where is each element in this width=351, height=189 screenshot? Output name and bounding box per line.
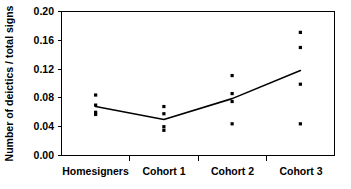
x-tick-label-cohort-1: Cohort 1: [142, 165, 185, 177]
y-tick-label: 0.08: [34, 91, 55, 103]
y-tick-label: 0.20: [34, 5, 55, 17]
x-tick-label-homesigners: Homesigners: [62, 165, 129, 177]
scatter-plot: 0.20 0.16 0.12 0.08 0.04 0.00 Number of …: [0, 0, 351, 189]
y-tick-label: 0.00: [34, 149, 55, 161]
y-tick-label: 0.12: [34, 63, 55, 75]
y-tick-label: 0.04: [34, 120, 55, 132]
data-point: [299, 122, 302, 125]
y-tick-label: 0.16: [34, 34, 55, 46]
data-point: [162, 105, 165, 108]
data-point: [94, 113, 97, 116]
y-axis-title: Number of deictics / total signs: [3, 5, 15, 161]
data-point: [162, 129, 165, 132]
x-tick-label-cohort-3: Cohort 3: [279, 165, 322, 177]
data-point: [94, 104, 97, 107]
data-point: [231, 74, 234, 77]
data-point: [299, 46, 302, 49]
data-point: [299, 31, 302, 34]
data-point: [162, 112, 165, 115]
data-point: [231, 100, 234, 103]
chart-figure: 0.20 0.16 0.12 0.08 0.04 0.00 Number of …: [0, 0, 351, 189]
data-point: [299, 83, 302, 86]
data-point: [162, 125, 165, 128]
data-point: [231, 122, 234, 125]
data-point: [231, 92, 234, 95]
data-point: [94, 93, 97, 96]
x-tick-label-cohort-2: Cohort 2: [211, 165, 254, 177]
